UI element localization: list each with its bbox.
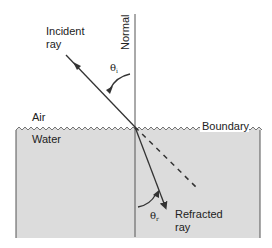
incident-label-line2: ray [46, 38, 62, 50]
normal-label: Normal [119, 15, 131, 50]
theta-r-subscript: r [156, 215, 159, 222]
water-region [16, 130, 260, 238]
water-label: Water [32, 133, 61, 145]
air-label: Air [32, 111, 46, 123]
theta-i-subscript: i [116, 67, 118, 74]
boundary-label: Boundary [202, 120, 250, 132]
refracted-label-line2: ray [175, 221, 191, 233]
theta-i-arrow-icon [106, 86, 113, 94]
incident-label-line1: Incident [46, 25, 85, 37]
refracted-label-line1: Refracted [175, 208, 223, 220]
refraction-diagram: Incident ray Normal θ i Air Water Bounda… [0, 0, 272, 248]
theta-i-arc [110, 74, 130, 89]
